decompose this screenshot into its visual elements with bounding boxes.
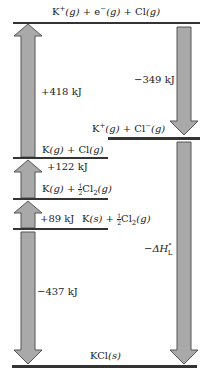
arrow-up-dissociation <box>14 160 42 198</box>
state: (g) <box>136 213 150 224</box>
state: (g) <box>49 183 63 194</box>
level-line-kgas <box>13 198 108 200</box>
state: (g) <box>65 6 79 17</box>
level-line-ions <box>108 137 200 140</box>
species-Cl: Cl <box>134 123 145 134</box>
plus-sign: + <box>80 6 95 17</box>
species-KCl: KCl <box>90 350 108 361</box>
state: (g) <box>89 144 103 155</box>
state: (g) <box>151 123 165 134</box>
step-label-electron-affinity: −349 kJ <box>134 74 175 86</box>
level-label-elements: K(s) + 12Cl2(g) <box>82 213 151 226</box>
species-Cl: Cl <box>78 144 89 155</box>
plus-sign: + <box>120 6 135 17</box>
level-label-top: K+(g) + e−(g) + Cl(g) <box>52 6 160 18</box>
level-label-ions: K+(g) + Cl−(g) <box>92 123 165 135</box>
arrow-down-lattice <box>170 142 198 364</box>
arrow-up-sublimation <box>14 201 42 228</box>
level-line-elements <box>13 228 108 230</box>
level-line-top <box>13 22 200 24</box>
level-line-product <box>12 365 197 368</box>
step-label-dissociation: +122 kJ <box>47 161 88 173</box>
arrow-down-formation <box>14 232 42 364</box>
level-line-atoms <box>13 157 108 159</box>
species-Cl2: Cl <box>121 213 132 224</box>
species-Cl2: Cl <box>82 183 93 194</box>
species-Cl: Cl <box>135 6 146 17</box>
state: (s) <box>108 350 121 361</box>
plus-sign: + <box>64 144 79 155</box>
arrow-up-ionization <box>14 24 42 157</box>
step-label-ionization: +418 kJ <box>41 86 82 98</box>
state: (g) <box>106 6 120 17</box>
plus-sign: + <box>120 123 135 134</box>
lattice-sub: L <box>168 249 173 257</box>
step-label-sublimation: +89 kJ <box>40 213 74 225</box>
level-label-kgas: K(g) + 12Cl2(g) <box>42 183 112 196</box>
lattice-symbol: −ΔH <box>144 243 168 254</box>
step-label-formation: −437 kJ <box>37 286 78 298</box>
plus-sign: + <box>64 183 79 194</box>
step-label-lattice: −ΔH°L <box>144 243 172 255</box>
state: (g) <box>105 123 119 134</box>
state: (s) <box>89 213 102 224</box>
state: (g) <box>98 183 112 194</box>
level-label-product: KCl(s) <box>90 350 121 362</box>
level-label-atoms: K(g) + Cl(g) <box>42 144 104 156</box>
state: (g) <box>146 6 160 17</box>
plus-sign: + <box>102 213 117 224</box>
state: (g) <box>49 144 63 155</box>
